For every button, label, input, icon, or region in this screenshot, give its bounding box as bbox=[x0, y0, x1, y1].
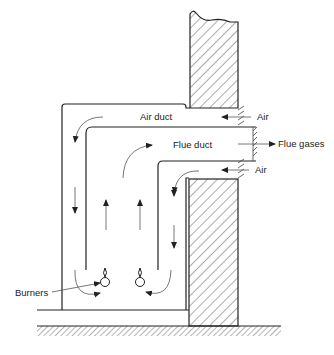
flue-duct-label: Flue duct bbox=[173, 140, 212, 150]
air-inlet-bottom-hatch bbox=[238, 159, 244, 178]
lower-wall bbox=[189, 179, 238, 326]
burner-left bbox=[101, 268, 110, 287]
burners-leader bbox=[52, 283, 100, 292]
air-inlet-top-hatch bbox=[238, 106, 244, 125]
air-duct-label: Air duct bbox=[140, 112, 172, 122]
upper-wall bbox=[190, 11, 238, 108]
burner-right-curve-arrow bbox=[146, 270, 171, 293]
burners-label: Burners bbox=[15, 288, 48, 298]
burner-left-curve-arrow bbox=[75, 270, 100, 294]
air-bottom-label: Air bbox=[255, 165, 267, 175]
flue-gases-label: Flue gases bbox=[278, 139, 324, 149]
outer-casing bbox=[62, 104, 190, 310]
air-top-label: Air bbox=[257, 112, 269, 122]
ground bbox=[37, 326, 281, 336]
flue-outlet-hatch bbox=[253, 127, 257, 156]
heater-duct-diagram bbox=[0, 0, 334, 355]
air-duct-curve-arrow bbox=[75, 117, 103, 142]
flue-duct-curve-arrow bbox=[123, 145, 152, 178]
burner-right bbox=[136, 268, 145, 287]
